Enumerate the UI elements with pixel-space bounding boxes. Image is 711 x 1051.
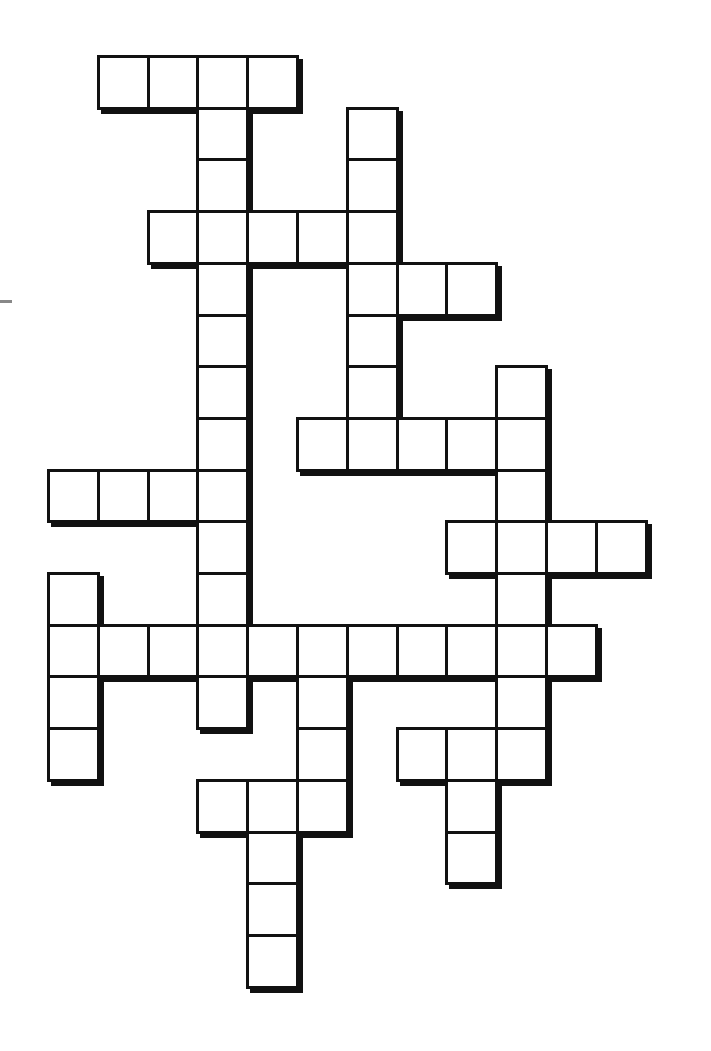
crossword-cell[interactable] bbox=[445, 727, 498, 782]
crossword-cell[interactable] bbox=[545, 520, 598, 575]
crossword-cell[interactable] bbox=[246, 210, 299, 265]
crossword-cell[interactable] bbox=[346, 624, 399, 678]
crossword-cell[interactable] bbox=[196, 314, 249, 368]
crossword-cell[interactable] bbox=[495, 520, 548, 575]
crossword-cell[interactable] bbox=[147, 55, 199, 110]
crossword-cell[interactable] bbox=[495, 469, 548, 523]
edge-mark bbox=[0, 300, 12, 303]
crossword-cell[interactable] bbox=[296, 779, 349, 834]
crossword-cell[interactable] bbox=[296, 417, 349, 472]
crossword-cell[interactable] bbox=[196, 107, 249, 161]
crossword-cell[interactable] bbox=[346, 314, 399, 368]
crossword-cell[interactable] bbox=[445, 624, 498, 678]
crossword-cell[interactable] bbox=[445, 520, 498, 575]
crossword-cell[interactable] bbox=[196, 262, 249, 317]
crossword-cell[interactable] bbox=[346, 158, 399, 213]
crossword-cell[interactable] bbox=[346, 107, 399, 161]
crossword-cell[interactable] bbox=[346, 262, 399, 317]
crossword-cell[interactable] bbox=[196, 55, 249, 110]
crossword-cell[interactable] bbox=[396, 417, 448, 472]
crossword-cell[interactable] bbox=[196, 469, 249, 523]
crossword-cell[interactable] bbox=[595, 520, 648, 575]
crossword-cell[interactable] bbox=[445, 262, 498, 317]
crossword-cell[interactable] bbox=[346, 417, 399, 472]
crossword-cell[interactable] bbox=[346, 365, 399, 420]
crossword-cell[interactable] bbox=[97, 624, 150, 678]
crossword-cell[interactable] bbox=[47, 469, 100, 523]
crossword-cell[interactable] bbox=[495, 675, 548, 730]
crossword-cell[interactable] bbox=[296, 675, 349, 730]
crossword-cell[interactable] bbox=[196, 210, 249, 265]
crossword-cell[interactable] bbox=[396, 624, 448, 678]
crossword-cell[interactable] bbox=[246, 831, 299, 885]
crossword-cell[interactable] bbox=[196, 572, 249, 627]
crossword-cell[interactable] bbox=[246, 55, 299, 110]
crossword-cell[interactable] bbox=[196, 365, 249, 420]
crossword-cell[interactable] bbox=[147, 210, 199, 265]
crossword-cell[interactable] bbox=[47, 727, 100, 782]
crossword-cell[interactable] bbox=[545, 624, 598, 678]
crossword-cell[interactable] bbox=[296, 210, 349, 265]
crossword-cell[interactable] bbox=[445, 779, 498, 834]
crossword-cell[interactable] bbox=[495, 572, 548, 627]
crossword-cell[interactable] bbox=[196, 417, 249, 472]
crossword-cell[interactable] bbox=[97, 55, 150, 110]
crossword-cell[interactable] bbox=[445, 417, 498, 472]
crossword-cell[interactable] bbox=[147, 469, 199, 523]
crossword-cell[interactable] bbox=[196, 779, 249, 834]
crossword-cell[interactable] bbox=[47, 572, 100, 627]
crossword-cell[interactable] bbox=[246, 779, 299, 834]
crossword-cell[interactable] bbox=[47, 675, 100, 730]
crossword-cell[interactable] bbox=[147, 624, 199, 678]
crossword-cell[interactable] bbox=[246, 934, 299, 989]
crossword-board bbox=[0, 0, 711, 1051]
crossword-cell[interactable] bbox=[246, 882, 299, 937]
crossword-cell[interactable] bbox=[495, 624, 548, 678]
crossword-cell[interactable] bbox=[196, 675, 249, 730]
crossword-cell[interactable] bbox=[47, 624, 100, 678]
crossword-cell[interactable] bbox=[97, 469, 150, 523]
crossword-cell[interactable] bbox=[246, 624, 299, 678]
crossword-cell[interactable] bbox=[296, 624, 349, 678]
crossword-cell[interactable] bbox=[196, 624, 249, 678]
crossword-cell[interactable] bbox=[346, 210, 399, 265]
crossword-cell[interactable] bbox=[196, 158, 249, 213]
crossword-cell[interactable] bbox=[296, 727, 349, 782]
crossword-cell[interactable] bbox=[396, 727, 448, 782]
crossword-cell[interactable] bbox=[396, 262, 448, 317]
crossword-cell[interactable] bbox=[196, 520, 249, 575]
crossword-cell[interactable] bbox=[495, 417, 548, 472]
crossword-cell[interactable] bbox=[445, 831, 498, 885]
crossword-cell[interactable] bbox=[495, 727, 548, 782]
crossword-cell[interactable] bbox=[495, 365, 548, 420]
